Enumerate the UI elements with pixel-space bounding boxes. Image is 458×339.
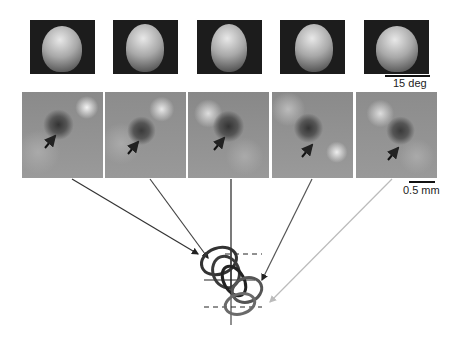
- contour-5: [223, 290, 257, 317]
- connector-line-2: [150, 179, 208, 258]
- contour-4: [229, 274, 265, 307]
- map-pointer-arrows: [45, 136, 398, 160]
- connector-line-4: [262, 179, 312, 280]
- connector-line-1: [72, 179, 198, 254]
- connector-line-5: [270, 179, 392, 302]
- connector-overlay: [0, 0, 458, 339]
